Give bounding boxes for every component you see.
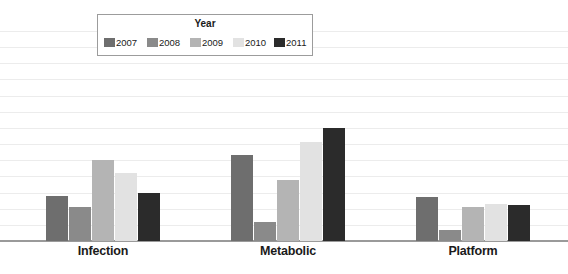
legend-label-2009: 2009 [202,37,223,48]
legend-swatch-icon-2007 [104,38,115,47]
category-label-platform: Platform [413,244,533,258]
legend-item-2011[interactable]: 2011 [274,36,306,49]
bar-platform-2007 [416,197,438,241]
bar-metabolic-2011 [323,128,345,241]
bar-metabolic-2007 [231,155,253,241]
legend-label-2007: 2007 [116,37,137,48]
bar-metabolic-2008 [254,222,276,241]
bar-platform-2011 [508,205,530,241]
category-label-infection: Infection [43,244,163,258]
legend-label-2010: 2010 [245,37,266,48]
legend-swatch-icon-2010 [233,38,244,47]
bar-infection-2010 [115,173,137,241]
legend-item-2010[interactable]: 2010 [233,36,266,49]
legend-item-2009[interactable]: 2009 [190,36,223,49]
legend-item-2008[interactable]: 2008 [147,36,180,49]
bar-metabolic-2009 [277,180,299,241]
legend-swatch-icon-2008 [147,38,158,47]
legend-swatch-icon-2009 [190,38,201,47]
legend-label-2008: 2008 [159,37,180,48]
legend: Year 20072008200920102011 [97,14,313,56]
bar-platform-2010 [485,204,507,241]
category-axis-labels: InfectionMetabolicPlatform [0,244,568,266]
legend-label-2011: 2011 [286,37,306,48]
bar-infection-2011 [138,193,160,241]
bar-metabolic-2010 [300,142,322,241]
bar-infection-2007 [46,196,68,241]
legend-title: Year [98,18,312,29]
bar-infection-2009 [92,160,114,241]
bar-platform-2008 [439,230,461,241]
bar-chart: InfectionMetabolicPlatform Year 20072008… [0,0,568,274]
legend-item-2007[interactable]: 2007 [104,36,137,49]
bar-infection-2008 [69,207,91,241]
legend-items: 20072008200920102011 [104,36,308,50]
legend-swatch-icon-2011 [274,38,285,47]
category-label-metabolic: Metabolic [228,244,348,258]
bar-platform-2009 [462,207,484,241]
